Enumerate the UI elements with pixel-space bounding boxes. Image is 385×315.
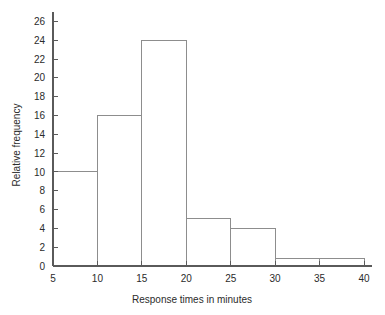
histogram-bar: [142, 40, 186, 266]
y-tick-label: 16: [34, 110, 46, 121]
y-tick-label: 26: [34, 16, 46, 27]
histogram-bar: [275, 258, 319, 266]
y-tick-label: 6: [39, 204, 45, 215]
y-tick-label: 24: [34, 35, 46, 46]
x-tick-label: 10: [92, 273, 104, 284]
histogram-bar: [186, 219, 230, 266]
y-tick-label: 14: [34, 129, 46, 140]
y-tick-label: 0: [39, 261, 45, 272]
histogram-bar: [231, 228, 275, 266]
y-tick-label: 4: [39, 223, 45, 234]
y-tick-label: 2: [39, 242, 45, 253]
histogram-chart: 510152025303540 02468101214161820222426 …: [0, 0, 385, 315]
histogram-bar: [97, 115, 141, 266]
y-tick-label: 22: [34, 54, 46, 65]
histogram-bar: [53, 172, 97, 266]
y-tick-label: 18: [34, 91, 46, 102]
x-tick-label: 15: [136, 273, 148, 284]
y-tick-label: 12: [34, 148, 46, 159]
x-tick-label: 5: [50, 273, 56, 284]
x-axis-title: Response times in minutes: [132, 294, 252, 305]
x-tick-label: 35: [314, 273, 326, 284]
x-tick-label: 40: [358, 273, 370, 284]
y-tick-label: 20: [34, 72, 46, 83]
x-tick-label: 20: [181, 273, 193, 284]
x-tick-label: 25: [225, 273, 237, 284]
chart-background: [0, 0, 385, 315]
y-tick-label: 10: [34, 167, 46, 178]
y-axis-title: Relative frequency: [11, 104, 22, 187]
y-tick-label: 8: [39, 185, 45, 196]
chart-canvas: 510152025303540 02468101214161820222426 …: [0, 0, 385, 315]
x-tick-label: 30: [270, 273, 282, 284]
histogram-bar: [320, 258, 364, 266]
